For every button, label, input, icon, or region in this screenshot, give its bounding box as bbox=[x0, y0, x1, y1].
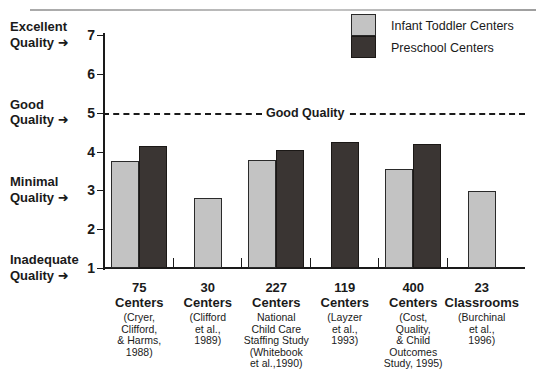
y-tick-1 bbox=[97, 268, 104, 269]
annotation-line-2: Quality ➜ bbox=[10, 112, 69, 128]
bar-infant-toddler-group-2 bbox=[194, 198, 222, 268]
y-annotation-minimal: MinimalQuality ➜ bbox=[10, 174, 69, 205]
y-tick-6 bbox=[97, 74, 104, 75]
annotation-line-1: Inadequate bbox=[10, 252, 79, 268]
y-tick-label-5: 5 bbox=[79, 106, 95, 120]
y-annotation-excellent: ExcellentQuality ➜ bbox=[10, 19, 69, 50]
good-quality-line-right bbox=[340, 113, 525, 115]
citation-line: et al.,1990) bbox=[233, 358, 320, 370]
x-axis-separator-1 bbox=[173, 258, 174, 268]
y-tick-label-6: 6 bbox=[79, 67, 95, 81]
group-citation: (Burchinalet al.,1996) bbox=[439, 312, 526, 347]
bar-infant-toddler-group-3 bbox=[248, 160, 276, 268]
good-quality-line-label: Good Quality bbox=[262, 106, 348, 120]
y-tick-2 bbox=[97, 229, 104, 230]
y-tick-label-1: 1 bbox=[79, 261, 95, 275]
legend-swatch-infant-toddler bbox=[351, 14, 376, 36]
annotation-line-2: Quality ➜ bbox=[10, 35, 69, 51]
annotation-line-1: Good bbox=[10, 97, 69, 113]
bar-infant-toddler-group-6 bbox=[468, 191, 496, 268]
legend-label-infant-toddler: Infant Toddler Centers bbox=[391, 20, 514, 33]
annotation-line-1: Minimal bbox=[10, 174, 69, 190]
citation-line: Study, 1995) bbox=[370, 358, 457, 370]
annotation-line-2: Quality ➜ bbox=[10, 190, 69, 206]
x-group-label-6: 23Classrooms(Burchinalet al.,1996) bbox=[439, 280, 526, 347]
good-quality-line-left bbox=[103, 113, 262, 115]
group-count: 23 bbox=[439, 280, 526, 295]
legend-swatch-preschool bbox=[351, 36, 376, 58]
bar-infant-toddler-group-1 bbox=[111, 161, 139, 268]
bar-preschool-group-3 bbox=[276, 150, 304, 268]
citation-line: (Burchinal bbox=[439, 312, 526, 324]
x-axis-separator-5 bbox=[447, 258, 448, 268]
citation-line: 1988) bbox=[96, 347, 183, 359]
bar-preschool-group-5 bbox=[413, 144, 441, 268]
citation-line: 1996) bbox=[439, 335, 526, 347]
y-annotation-inadequate: InadequateQuality ➜ bbox=[10, 252, 79, 283]
y-tick-label-4: 4 bbox=[79, 145, 95, 159]
annotation-line-1: Excellent bbox=[10, 19, 69, 35]
bar-preschool-group-4 bbox=[331, 142, 359, 268]
x-axis-separator-4 bbox=[378, 258, 379, 268]
y-tick-label-2: 2 bbox=[79, 222, 95, 236]
y-tick-label-7: 7 bbox=[79, 28, 95, 42]
legend-label-preschool: Preschool Centers bbox=[391, 42, 494, 55]
y-tick-7 bbox=[97, 35, 104, 36]
group-unit: Classrooms bbox=[439, 295, 526, 310]
annotation-line-2: Quality ➜ bbox=[10, 268, 79, 284]
y-annotation-good: GoodQuality ➜ bbox=[10, 97, 69, 128]
bar-infant-toddler-group-5 bbox=[385, 169, 413, 268]
x-axis-separator-3 bbox=[310, 258, 311, 268]
scan-artifact-line bbox=[30, 9, 536, 11]
x-axis-separator-2 bbox=[241, 258, 242, 268]
y-tick-3 bbox=[97, 190, 104, 191]
y-tick-label-3: 3 bbox=[79, 183, 95, 197]
bar-preschool-group-1 bbox=[139, 146, 167, 268]
y-tick-4 bbox=[97, 152, 104, 153]
